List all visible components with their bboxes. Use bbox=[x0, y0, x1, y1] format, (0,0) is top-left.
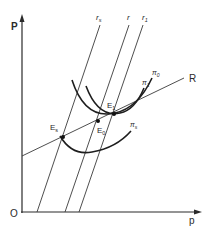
y-axis-arrow-icon bbox=[20, 14, 25, 22]
svg-text:r1: r1 bbox=[142, 13, 148, 23]
point-E-s: Es bbox=[50, 123, 65, 139]
svg-text:π0: π0 bbox=[152, 69, 160, 78]
point-E-0: E0 bbox=[96, 119, 105, 136]
curve-pi-0: π0 bbox=[72, 69, 160, 114]
svg-text:rs: rs bbox=[96, 13, 102, 23]
svg-text:E1: E1 bbox=[107, 101, 115, 111]
line-R-label: R bbox=[189, 73, 196, 84]
x-axis: p bbox=[21, 210, 202, 227]
x-axis-label: p bbox=[189, 215, 195, 226]
y-axis-label: P bbox=[11, 21, 18, 32]
curve-pi-1: π1 bbox=[86, 79, 150, 114]
svg-text:Es: Es bbox=[50, 123, 58, 133]
line-r-label: r bbox=[127, 13, 130, 22]
svg-text:E0: E0 bbox=[97, 126, 105, 136]
svg-text:π1: π1 bbox=[142, 79, 150, 88]
y-axis: P bbox=[11, 14, 25, 213]
origin-label: O bbox=[10, 208, 18, 219]
x-axis-arrow-icon bbox=[194, 210, 202, 215]
line-r-s: rs bbox=[37, 13, 102, 212]
economic-diagram: P p O rs r r1 R π0 π1 πs Es bbox=[0, 0, 212, 232]
svg-text:πs: πs bbox=[130, 121, 138, 130]
